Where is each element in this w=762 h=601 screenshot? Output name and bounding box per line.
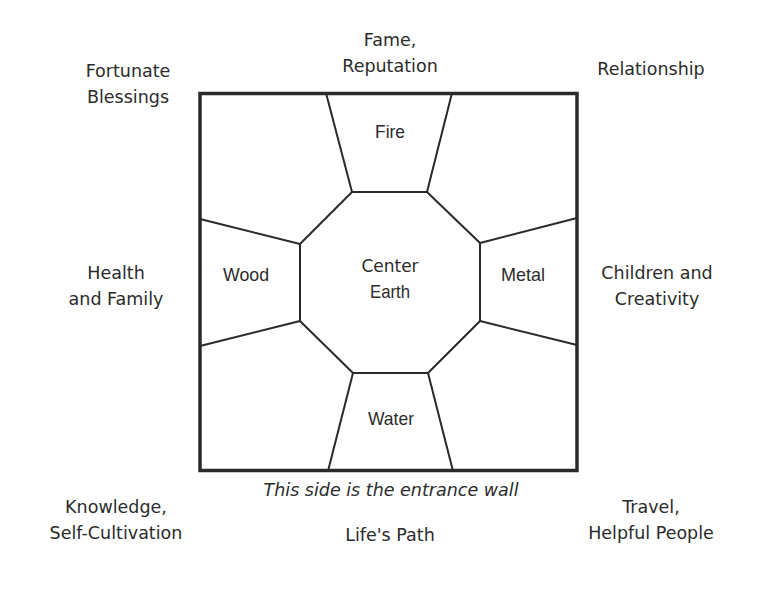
entrance-wall-caption: This side is the entrance wall [263,480,518,500]
area-label-line: Health [69,260,164,286]
center-label-line1: Center [361,256,418,276]
element-metal-label: Metal [501,264,545,285]
area-lifes-path: Life's Path [345,522,434,548]
area-label-line: Knowledge, [50,494,183,520]
element-wood-label: Wood [223,264,269,285]
water-right-edge [428,373,453,471]
fire-right-edge [427,93,452,192]
metal-lower-edge [480,321,577,345]
area-label-line: Helpful People [588,520,714,546]
area-fortunate-blessings: Fortunate Blessings [86,58,171,110]
area-children-creativity: Children and Creativity [601,260,712,312]
area-label-line: Life's Path [345,522,434,548]
area-relationship: Relationship [597,56,704,82]
area-label-line: Fame, [342,27,437,53]
area-label-line: Fortunate [86,58,171,84]
fire-left-edge [326,93,352,192]
area-travel-helpful-people: Travel, Helpful People [588,494,714,546]
area-label-line: Children and [601,260,712,286]
wood-lower-edge [200,321,300,346]
area-label-line: Travel, [588,494,714,520]
element-fire-label: Fire [375,121,405,142]
area-label-line: Self-Cultivation [50,520,183,546]
element-water-label: Water [368,408,415,429]
area-label-line: and Family [69,286,164,312]
area-label-line: Creativity [601,286,712,312]
center-label-line2: Earth [370,281,410,302]
water-left-edge [328,373,353,471]
area-fame-reputation: Fame, Reputation [342,27,437,79]
wood-upper-edge [200,219,300,244]
area-label-line: Relationship [597,56,704,82]
area-label-line: Reputation [342,53,437,79]
area-knowledge-self-cultivation: Knowledge, Self-Cultivation [50,494,183,546]
area-health-family: Health and Family [69,260,164,312]
area-label-line: Blessings [86,84,171,110]
metal-upper-edge [480,218,577,243]
